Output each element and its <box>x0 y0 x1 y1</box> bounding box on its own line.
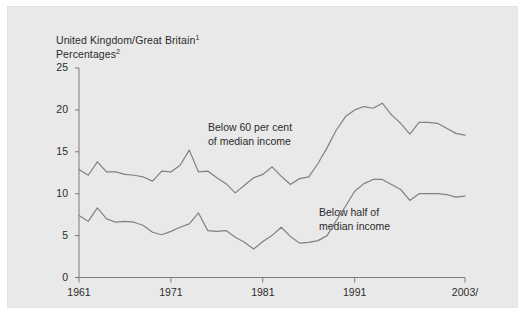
series-line-2 <box>79 179 465 249</box>
y-axis-tick-label: 10 <box>46 187 68 199</box>
y-axis-tick-label: 5 <box>46 229 68 241</box>
x-axis-tick-label: 1971 <box>159 286 182 298</box>
chart-series <box>79 103 465 249</box>
y-axis-tick-label: 15 <box>46 145 68 157</box>
series-line-1 <box>79 103 465 193</box>
x-axis-tick-label: 1991 <box>343 286 366 298</box>
chart-plot-area <box>0 0 525 322</box>
y-axis-tick-label: 20 <box>46 103 68 115</box>
x-axis-tick-label: 1961 <box>67 286 90 298</box>
y-axis-tick-label: 25 <box>46 61 68 73</box>
chart-screenshot: United Kingdom/Great Britain1 Percentage… <box>0 0 525 322</box>
x-axis-tick-label: 2003/ <box>452 286 478 298</box>
x-axis-tick-label: 1981 <box>251 286 274 298</box>
y-axis-tick-label: 0 <box>46 271 68 283</box>
